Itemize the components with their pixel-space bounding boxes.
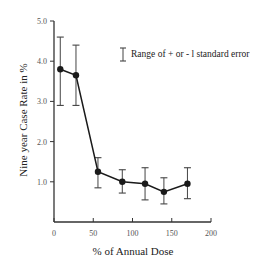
- data-point: [95, 169, 101, 175]
- error-bar-legend-icon: [120, 48, 126, 61]
- y-tick-label: 5.0: [37, 17, 47, 26]
- y-tick-label: 3.0: [37, 97, 47, 106]
- y-tick-label: 1.0: [37, 178, 47, 187]
- chart-canvas: 0501001502001.02.03.04.05.0 Range of + o…: [0, 0, 274, 266]
- y-tick-label: 2.0: [37, 138, 47, 147]
- x-tick-label: 50: [89, 229, 97, 238]
- x-tick-label: 200: [205, 229, 217, 238]
- data-point: [184, 181, 190, 187]
- y-axis-title: Nine year Case Rate in %: [17, 63, 29, 176]
- x-tick-label: 0: [52, 229, 56, 238]
- y-tick-label: 4.0: [37, 57, 47, 66]
- data-point: [142, 181, 148, 187]
- x-axis-title: % of Annual Dose: [93, 245, 174, 257]
- x-tick-label: 100: [127, 229, 139, 238]
- data-point: [57, 66, 63, 72]
- x-tick-label: 150: [166, 229, 178, 238]
- data-point: [161, 189, 167, 195]
- legend: Range of + or - l standard error: [120, 48, 250, 61]
- legend-label: Range of + or - l standard error: [131, 49, 250, 59]
- data-series: [57, 37, 191, 204]
- data-point: [73, 72, 79, 78]
- series-line: [60, 69, 187, 192]
- data-point: [119, 179, 125, 185]
